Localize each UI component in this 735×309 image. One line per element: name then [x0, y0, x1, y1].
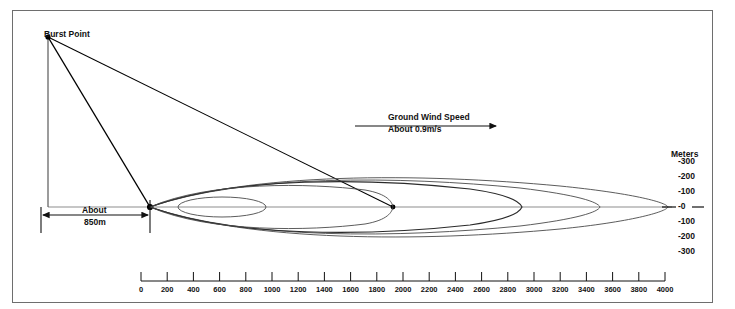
scale-tick-label-4000: 4000 [657, 285, 674, 294]
scale-tick-label-400: 400 [187, 285, 200, 294]
wind-speed-label-title: Ground Wind Speed [388, 113, 470, 122]
scale-tick-label-800: 800 [240, 285, 253, 294]
scale-tick-label-2600: 2600 [473, 285, 490, 294]
scale-tick-label-2200: 2200 [421, 285, 438, 294]
scale-tick-group [141, 272, 665, 281]
scale-tick-label-0: 0 [139, 285, 143, 294]
scale-tick-label-3600: 3600 [604, 285, 621, 294]
scale-tick-label-2400: 2400 [447, 285, 464, 294]
burst-point-label: Burst Point [44, 30, 90, 39]
scale-tick-label-3400: 3400 [578, 285, 595, 294]
fallout-plume-diagram: Burst Point Ground Wind Speed About 0.9m… [0, 0, 735, 309]
horizontal-scale-ruler [141, 272, 665, 281]
scale-tick-label-1200: 1200 [290, 285, 307, 294]
scale-tick-label-3200: 3200 [552, 285, 569, 294]
dimension-label-value: 850m [84, 218, 106, 227]
diagram-frame [13, 11, 713, 303]
scale-tick-label-1600: 1600 [342, 285, 359, 294]
scale-tick-label-200: 200 [161, 285, 174, 294]
scale-tick-label-600: 600 [213, 285, 226, 294]
vertical-axis-tick-4: -100 [678, 216, 695, 226]
scale-tick-label-1000: 1000 [264, 285, 281, 294]
diagram-canvas [0, 0, 735, 309]
scale-tick-label-3000: 3000 [526, 285, 543, 294]
scale-tick-label-1400: 1400 [316, 285, 333, 294]
vertical-axis-tick-5: -200 [678, 231, 695, 241]
vertical-axis-tick-3: -0 [678, 201, 686, 211]
scale-tick-label-1800: 1800 [368, 285, 385, 294]
scale-tick-label-2000: 2000 [395, 285, 412, 294]
dimension-label-about: About [82, 206, 107, 215]
vertical-axis-tick-1: -200 [678, 171, 695, 181]
vertical-axis-tick-0: -300 [678, 156, 695, 166]
vertical-axis-tick-6: -300 [678, 246, 695, 256]
vertical-axis-tick-2: -100 [678, 186, 695, 196]
scale-tick-label-2800: 2800 [499, 285, 516, 294]
scale-tick-label-3800: 3800 [630, 285, 647, 294]
wind-speed-label-value: About 0.9m/s [388, 125, 441, 134]
